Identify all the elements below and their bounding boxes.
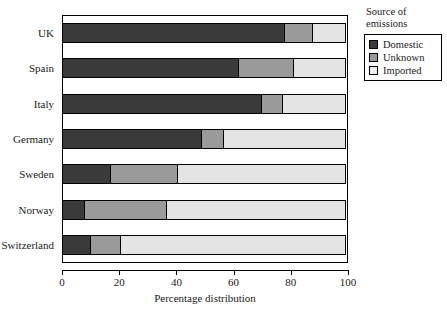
x-tick (291, 270, 292, 275)
category-axis-labels: UKSpainItalyGermanySwedenNorwaySwitzerla… (0, 15, 58, 263)
legend-title: Source of emissions (364, 6, 444, 30)
category-label-spain: Spain (29, 62, 54, 74)
bar-segment-imported (293, 58, 346, 78)
x-tick-label: 20 (114, 276, 125, 289)
category-label-sweden: Sweden (19, 168, 54, 180)
x-tick-label: 0 (59, 276, 65, 289)
legend-item-label: Unknown (383, 52, 424, 64)
bar-segment-imported (223, 129, 346, 149)
legend-item-unknown[interactable]: Unknown (369, 51, 438, 64)
legend: Source of emissions DomesticUnknownImpor… (364, 6, 444, 81)
bar-row (62, 23, 348, 43)
bar-track (62, 200, 348, 220)
legend-item-domestic[interactable]: Domestic (369, 38, 438, 51)
bar-segment-imported (312, 23, 346, 43)
category-label-uk: UK (38, 27, 54, 39)
bar-segment-domestic (62, 58, 239, 78)
bar-track (62, 164, 348, 184)
bar-segment-domestic (62, 129, 202, 149)
legend-swatch-icon (369, 66, 378, 75)
legend-swatch-icon (369, 53, 378, 62)
bar-row (62, 94, 348, 114)
bar-row (62, 164, 348, 184)
bar-segment-unknown (261, 94, 282, 114)
bar-segment-unknown (110, 164, 179, 184)
x-tick-label: 60 (228, 276, 239, 289)
x-tick (62, 270, 63, 275)
legend-item-label: Imported (383, 65, 422, 77)
category-label-germany: Germany (13, 133, 54, 145)
legend-title-line-2: emissions (366, 18, 444, 30)
x-axis-line (62, 270, 348, 271)
bar-segment-imported (177, 164, 346, 184)
x-tick (348, 270, 349, 275)
x-tick (234, 270, 235, 275)
x-tick-label: 80 (285, 276, 296, 289)
bar-segment-unknown (90, 235, 121, 255)
bar-row (62, 200, 348, 220)
x-tick-label: 100 (340, 276, 357, 289)
bar-segment-imported (120, 235, 346, 255)
bar-segment-domestic (62, 235, 91, 255)
bar-segment-unknown (284, 23, 313, 43)
bar-track (62, 129, 348, 149)
category-label-switzerland: Switzerland (1, 239, 54, 251)
bar-track (62, 23, 348, 43)
legend-title-line-1: Source of (366, 6, 444, 18)
bar-row (62, 129, 348, 149)
bar-track (62, 58, 348, 78)
bar-row (62, 58, 348, 78)
bar-segment-imported (166, 200, 346, 220)
x-tick-label: 40 (171, 276, 182, 289)
bar-segment-imported (282, 94, 346, 114)
bar-segment-domestic (62, 164, 111, 184)
bar-segment-unknown (201, 129, 224, 149)
legend-box: DomesticUnknownImported (364, 34, 442, 81)
bar-row (62, 235, 348, 255)
bars-layer (62, 15, 348, 263)
bar-segment-domestic (62, 200, 85, 220)
bar-segment-unknown (238, 58, 294, 78)
bar-track (62, 235, 348, 255)
legend-item-label: Domestic (383, 39, 423, 51)
bar-segment-domestic (62, 23, 285, 43)
x-axis-title: Percentage distribution (62, 292, 348, 305)
category-label-norway: Norway (19, 204, 54, 216)
x-tick (119, 270, 120, 275)
bar-track (62, 94, 348, 114)
legend-item-imported[interactable]: Imported (369, 64, 438, 77)
x-tick (176, 270, 177, 275)
stacked-bar-chart: UKSpainItalyGermanySwedenNorwaySwitzerla… (0, 0, 447, 319)
bar-segment-domestic (62, 94, 262, 114)
legend-swatch-icon (369, 40, 378, 49)
bar-segment-unknown (84, 200, 167, 220)
category-label-italy: Italy (34, 98, 54, 110)
